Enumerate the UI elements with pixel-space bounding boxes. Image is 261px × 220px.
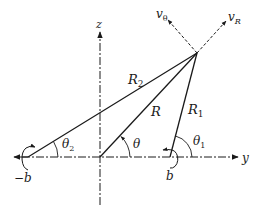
right-circulation-icon	[163, 150, 178, 169]
theta1-arc	[176, 136, 193, 157]
b-label: b	[166, 169, 174, 183]
theta2-label: θ2	[62, 137, 74, 153]
theta2-arc	[54, 142, 59, 158]
v-R-label: vR	[228, 10, 241, 26]
theta-label: θ	[133, 137, 141, 151]
R-label: R	[150, 104, 161, 119]
vortex-pair-diagram: z y vθ vR R2 R R1 θ2 θ θ1 −b b	[0, 0, 261, 220]
neg-b-label: −b	[14, 171, 32, 185]
v-theta-arrow	[168, 20, 197, 53]
left-circulation-icon	[22, 146, 35, 170]
theta1-label: θ1	[193, 134, 205, 150]
R1-label: R1	[187, 102, 204, 119]
velocity-vectors	[168, 20, 226, 53]
R2-label: R2	[127, 72, 144, 89]
line-R2	[28, 53, 197, 157]
line-R	[100, 53, 197, 157]
v-theta-label: vθ	[156, 7, 168, 23]
y-axis-label: y	[241, 151, 249, 165]
v-R-arrow	[197, 21, 226, 53]
distance-lines	[28, 53, 197, 157]
z-axis-label: z	[95, 18, 102, 31]
theta-arc	[121, 137, 130, 158]
